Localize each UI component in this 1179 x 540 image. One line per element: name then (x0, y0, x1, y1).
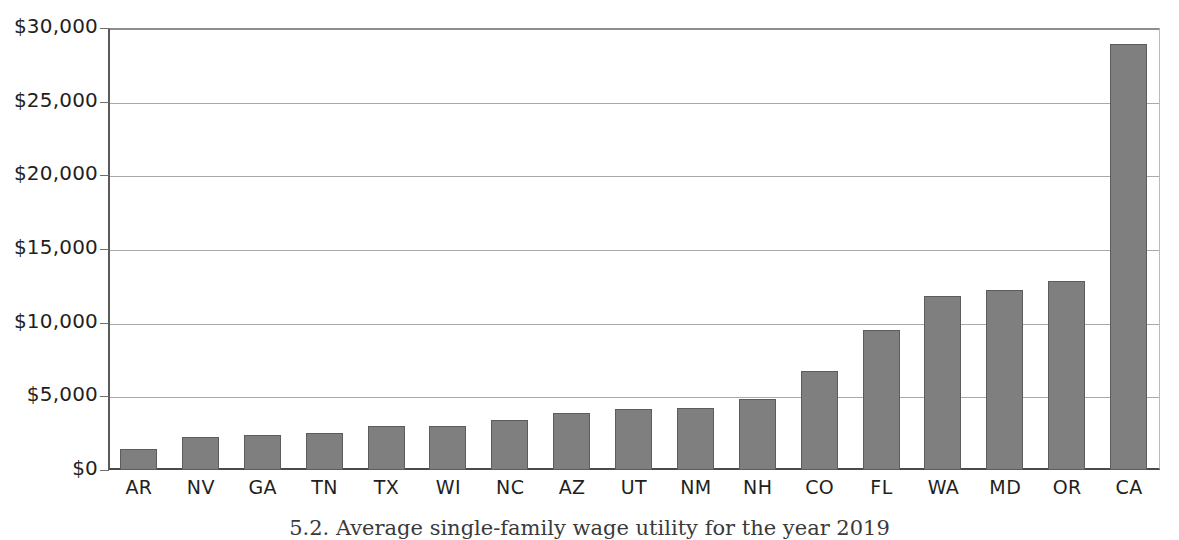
bar-slot (1098, 28, 1160, 470)
x-axis-tick-label: MD (974, 476, 1036, 498)
x-axis-tick-label: WA (912, 476, 974, 498)
bar[interactable] (491, 420, 528, 470)
y-axis-labels: $0$5,000$10,000$15,000$20,000$25,000$30,… (0, 0, 100, 540)
x-axis-tick-label: OR (1036, 476, 1098, 498)
bar-slot (417, 28, 479, 470)
y-axis-tick-mark (100, 249, 109, 250)
bar[interactable] (182, 437, 219, 470)
y-axis-tick-label: $15,000 (0, 235, 98, 259)
x-axis-tick-label: GA (232, 476, 294, 498)
bar-slot (789, 28, 851, 470)
bar[interactable] (306, 433, 343, 470)
bar-slot (232, 28, 294, 470)
y-axis-tick-label: $30,000 (0, 14, 98, 38)
bar[interactable] (677, 408, 714, 470)
x-axis-tick-label: NC (479, 476, 541, 498)
bar-slot (727, 28, 789, 470)
bar-slot (974, 28, 1036, 470)
x-axis-tick-label: NM (665, 476, 727, 498)
x-axis-tick-label: AR (108, 476, 170, 498)
bar[interactable] (801, 371, 838, 470)
x-axis-tick-label: AZ (541, 476, 603, 498)
x-axis-tick-label: TX (356, 476, 418, 498)
y-axis-tick-label: $25,000 (0, 88, 98, 112)
bar-slot (356, 28, 418, 470)
bar[interactable] (120, 449, 157, 470)
y-axis-tick-label: $5,000 (0, 382, 98, 406)
bar[interactable] (244, 435, 281, 470)
x-axis-tick-label: NV (170, 476, 232, 498)
bar-slot (294, 28, 356, 470)
bar-slot (603, 28, 665, 470)
bar-slot (665, 28, 727, 470)
bar-slot (479, 28, 541, 470)
bar-slot (541, 28, 603, 470)
bar-chart-figure: $0$5,000$10,000$15,000$20,000$25,000$30,… (0, 0, 1179, 540)
bar-slot (108, 28, 170, 470)
y-axis-tick-mark (100, 470, 109, 471)
x-axis-tick-label: UT (603, 476, 665, 498)
bar[interactable] (863, 330, 900, 470)
bar-slot (851, 28, 913, 470)
x-axis-tick-label: FL (851, 476, 913, 498)
figure-caption: 5.2. Average single-family wage utility … (0, 516, 1179, 540)
bar-slot (1036, 28, 1098, 470)
x-axis-tick-label: CO (789, 476, 851, 498)
bar[interactable] (1110, 44, 1147, 470)
x-axis-tick-label: TN (294, 476, 356, 498)
y-axis-tick-mark (100, 102, 109, 103)
bar[interactable] (1048, 281, 1085, 470)
y-axis-tick-mark (100, 175, 109, 176)
bar[interactable] (924, 296, 961, 470)
y-axis-tick-mark (100, 323, 109, 324)
bar[interactable] (553, 413, 590, 470)
bars-layer (108, 28, 1160, 470)
bar-slot (170, 28, 232, 470)
bar[interactable] (615, 409, 652, 470)
bar[interactable] (986, 290, 1023, 470)
x-axis-labels: ARNVGATNTXWINCAZUTNMNHCOFLWAMDORCA (108, 476, 1160, 506)
y-axis-tick-label: $0 (0, 456, 98, 480)
y-axis-tick-label: $10,000 (0, 309, 98, 333)
x-axis-tick-label: CA (1098, 476, 1160, 498)
x-axis-tick-label: WI (417, 476, 479, 498)
y-axis-tick-mark (100, 28, 109, 29)
bar[interactable] (368, 426, 405, 470)
bar[interactable] (739, 399, 776, 470)
bar-slot (912, 28, 974, 470)
x-axis-tick-label: NH (727, 476, 789, 498)
y-axis-tick-mark (100, 396, 109, 397)
y-axis-tick-label: $20,000 (0, 161, 98, 185)
bar[interactable] (429, 426, 466, 470)
